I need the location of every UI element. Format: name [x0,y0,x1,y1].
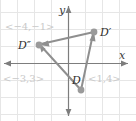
y-axis-arrow-up [66,6,72,13]
vector-label-top-left: <−4,−1> [5,21,54,32]
diagram-canvas: y x D D′ D″ <−4,−1> <−3,3> <1,4> [0,0,136,121]
vertex-d-prime [91,29,98,36]
y-axis-label: y [58,4,66,17]
vector-label-bottom-left: <−3,3> [3,73,44,84]
vertex-d-double-prime [36,42,43,49]
coordinate-plane-figure: y x D D′ D″ <−4,−1> <−3,3> <1,4> [0,0,136,121]
triangle-segments [41,32,94,90]
point-label-d: D [71,74,81,87]
vertex-d [78,87,85,94]
vector-label-right: <1,4> [88,73,121,84]
point-label-d-prime: D′ [99,26,112,39]
x-axis-label: x [119,49,126,62]
x-axis-arrow-left [4,61,11,67]
point-label-d-double-prime: D″ [17,39,32,52]
segment-dprime-to-ddprime [41,32,94,44]
segment-arrowheads [39,32,96,53]
